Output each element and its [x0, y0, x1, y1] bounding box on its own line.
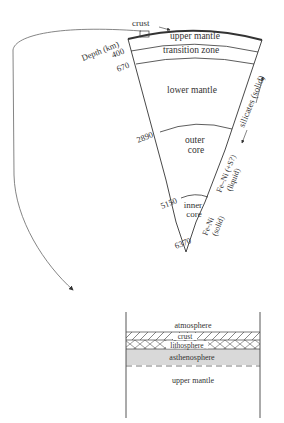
depth-tick-5150: 5150 — [159, 195, 179, 211]
boundary-5150 — [181, 195, 208, 198]
inner-core-comp-line2: (solid) — [210, 214, 226, 237]
depth-tick-670: 670 — [115, 60, 131, 74]
earth-structure-diagram: crust Depth (km) 400 670 2890 5150 6370 … — [0, 0, 284, 423]
layer-transition-zone: transition zone — [163, 45, 219, 55]
inner-core-line2: core — [186, 209, 202, 219]
boundary-670 — [136, 58, 254, 64]
depth-tick-2890: 2890 — [135, 129, 155, 145]
detail-box: atmosphere crust lithosphere asthenosphe… — [126, 312, 260, 418]
layer-inner-core: inner core — [184, 200, 205, 219]
crust-label: crust — [132, 18, 150, 28]
layer-outer-core: outer core — [185, 135, 207, 155]
outer-core-composition: Fe–Ni (+S?) (liquid) — [215, 152, 247, 198]
layer-lower-mantle: lower mantle — [167, 85, 217, 95]
boundary-2890 — [160, 124, 232, 132]
outer-core-line2: core — [188, 145, 204, 155]
detail-asthenosphere: asthenosphere — [169, 353, 215, 362]
detail-lithosphere: lithosphere — [170, 341, 204, 350]
inner-core-composition: Fe-Ni (solid) — [201, 211, 227, 240]
outer-core-line1: outer — [185, 135, 205, 145]
depth-tick-6370: 6370 — [173, 235, 193, 251]
layer-upper-mantle: upper mantle — [170, 31, 220, 41]
detail-atmosphere: atmosphere — [175, 321, 212, 330]
detail-upper-mantle: upper mantle — [172, 376, 214, 385]
wedge-left-edge — [128, 39, 186, 252]
crust-label-arrow — [159, 27, 170, 30]
silicates-arrow-down — [242, 130, 247, 143]
